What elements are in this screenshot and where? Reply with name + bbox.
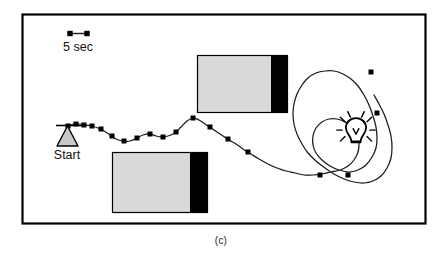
trajectory-marker <box>148 132 153 137</box>
upper-barrier-dark-face <box>271 55 288 113</box>
trajectory-marker <box>135 136 140 141</box>
trajectory-marker <box>122 139 127 144</box>
trajectory-marker <box>208 125 213 130</box>
trajectory-marker <box>369 70 374 75</box>
trajectory-marker <box>90 124 95 129</box>
start-label: Start <box>54 148 81 162</box>
trajectory-marker <box>110 134 115 139</box>
trajectory-marker <box>82 123 87 128</box>
trajectory-figure-svg: Start 5 sec <box>0 0 442 260</box>
scale-bar-marker-right <box>84 31 89 36</box>
trajectory-marker <box>246 150 251 155</box>
trajectory-marker <box>375 111 380 116</box>
trajectory-marker <box>174 130 179 135</box>
upper-barrier-light-face <box>197 55 271 113</box>
trajectory-marker <box>191 116 196 121</box>
trajectory-marker <box>318 173 323 178</box>
upper-barrier <box>197 55 288 113</box>
trajectory-marker <box>99 127 104 132</box>
scale-bar-marker-left <box>67 31 72 36</box>
trajectory-marker <box>226 137 231 142</box>
scale-bar-label: 5 sec <box>63 40 93 54</box>
lower-barrier-light-face <box>112 152 190 213</box>
lower-barrier-dark-face <box>190 152 208 213</box>
lower-barrier <box>112 152 208 213</box>
trajectory-marker <box>161 135 166 140</box>
figure-panel: Start 5 sec <box>0 0 442 260</box>
trajectory-marker <box>346 173 351 178</box>
figure-caption: (c) <box>0 235 442 246</box>
